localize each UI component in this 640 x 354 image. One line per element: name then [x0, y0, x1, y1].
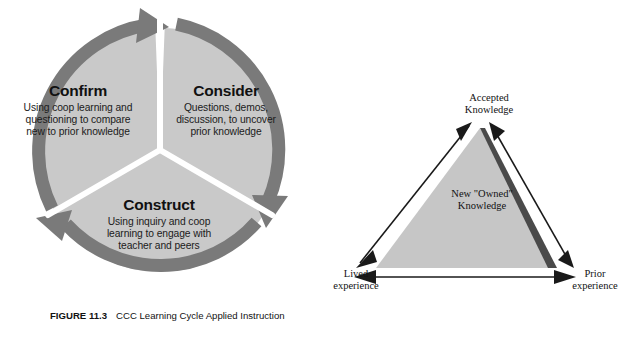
cycle-diagram-svg — [0, 0, 320, 300]
triangle-left-label: Lived experience — [322, 268, 390, 293]
triangle-diagram-art: Accepted Knowledge New "Owned" Knowledge… — [320, 0, 640, 300]
figure-11-3-caption-text: CCC Learning Cycle Applied Instruction — [116, 310, 290, 323]
wedge-consider-body: Questions, demos, discussion, to uncover… — [176, 102, 276, 138]
figure-11-4-panel: Accepted Knowledge New "Owned" Knowledge… — [320, 0, 640, 354]
wedge-consider-title: Consider — [176, 82, 276, 100]
wedge-consider: Consider Questions, demos, discussion, t… — [176, 82, 276, 138]
figures-page: Confirm Using coop learning and question… — [0, 0, 640, 354]
wedge-confirm-body: Using coop learning and questioning to c… — [22, 102, 134, 138]
triangle-right-label: Prior experience — [562, 268, 628, 293]
arrow-right-upper-head — [489, 122, 505, 141]
triangle-diagram-svg — [320, 0, 640, 300]
figure-11-3-caption: FIGURE 11.3 CCC Learning Cycle Applied I… — [50, 310, 290, 323]
wedge-construct-body: Using inquiry and coop learning to engag… — [92, 216, 226, 252]
figure-11-3-caption-label: FIGURE 11.3 — [50, 310, 107, 323]
triangle-center-label: New "Owned" Knowledge — [440, 188, 524, 213]
wedge-confirm: Confirm Using coop learning and question… — [22, 82, 134, 138]
arrow-left-lower-head — [356, 250, 377, 268]
figure-11-3-panel: Confirm Using coop learning and question… — [0, 0, 320, 354]
wedge-construct: Construct Using inquiry and coop learnin… — [92, 196, 226, 252]
triangle-apex-label: Accepted Knowledge — [446, 92, 532, 117]
wedge-confirm-title: Confirm — [22, 82, 134, 100]
arrow-right-lower-head — [558, 250, 574, 268]
wedge-construct-title: Construct — [92, 196, 226, 214]
cycle-diagram-art: Confirm Using coop learning and question… — [0, 0, 320, 300]
